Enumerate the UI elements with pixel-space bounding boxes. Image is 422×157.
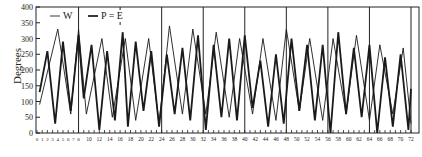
- x-tick-label: 10: [86, 136, 92, 142]
- x-tick-label: 26: [169, 136, 175, 142]
- y-tick-label: 100: [21, 98, 33, 107]
- x-tick-label: 60: [346, 136, 352, 142]
- x-tick-label: 8: [77, 137, 80, 142]
- y-tick-label: 400: [21, 3, 33, 12]
- x-tick-label: 58: [336, 136, 342, 142]
- line-chart: 0501001502002503003504000123456781012141…: [0, 0, 422, 157]
- x-tick-label: 16: [117, 136, 123, 142]
- x-tick-label: 24: [159, 136, 165, 142]
- x-tick-label: 54: [315, 136, 321, 142]
- x-tick-label: 56: [325, 136, 331, 142]
- x-tick-label: 6: [67, 137, 70, 142]
- legend-label-pe: P = E: [101, 10, 123, 21]
- y-tick-label: 50: [25, 113, 33, 122]
- x-tick-label: 72: [408, 136, 414, 142]
- x-tick-label: 0: [36, 137, 39, 142]
- x-tick-label: 52: [304, 136, 310, 142]
- x-tick-label: 68: [387, 136, 393, 142]
- x-tick-label: 20: [138, 136, 144, 142]
- x-tick-label: 70: [398, 136, 404, 142]
- x-tick-label: 4: [57, 137, 60, 142]
- x-tick-label: 14: [107, 136, 113, 142]
- legend: WP = E: [44, 10, 124, 22]
- x-tick-label: 3: [51, 137, 54, 142]
- x-tick-label: 12: [97, 136, 103, 142]
- x-tick-label: 50: [294, 136, 300, 142]
- x-tick-label: 30: [190, 136, 196, 142]
- x-tick-label: 7: [72, 137, 75, 142]
- x-tick-label: 66: [377, 136, 383, 142]
- x-tick-label: 36: [221, 136, 227, 142]
- x-tick-label: 28: [180, 136, 186, 142]
- axes: 0501001502002503003504000123456781012141…: [21, 3, 419, 142]
- x-tick-label: 38: [232, 136, 238, 142]
- x-tick-label: 42: [252, 136, 258, 142]
- x-tick-label: 48: [284, 136, 290, 142]
- x-tick-label: 46: [273, 136, 279, 142]
- y-axis-label: Degrees: [11, 41, 23, 91]
- x-tick-label: 32: [200, 136, 206, 142]
- x-tick-label: 62: [356, 136, 362, 142]
- legend-label-w: W: [63, 10, 73, 21]
- x-tick-label: 2: [46, 137, 49, 142]
- x-tick-label: 18: [128, 136, 134, 142]
- x-tick-label: 44: [263, 136, 269, 142]
- x-tick-label: 40: [242, 136, 248, 142]
- x-tick-label: 64: [367, 136, 373, 142]
- y-tick-label: 0: [29, 129, 33, 138]
- x-tick-label: 5: [62, 137, 65, 142]
- chart-svg: 0501001502002503003504000123456781012141…: [0, 0, 422, 157]
- y-tick-label: 350: [21, 19, 33, 28]
- x-tick-label: 34: [211, 136, 217, 142]
- x-tick-label: 1: [41, 137, 44, 142]
- x-tick-label: 22: [149, 136, 155, 142]
